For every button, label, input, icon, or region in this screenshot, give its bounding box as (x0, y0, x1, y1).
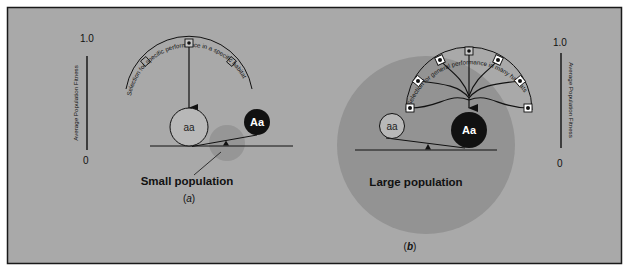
allele-aa-label: aa (183, 122, 195, 133)
population-label-b: Large population (369, 176, 462, 188)
panel-label-b: (b) (404, 241, 417, 252)
habitat-square-icon (524, 104, 532, 112)
axis-title: Average Population Fitness (72, 65, 79, 141)
habitat-square-icon (465, 47, 473, 55)
allele-Aa-label: Aa (250, 116, 265, 128)
panel-label-a: (a) (183, 193, 195, 204)
axis-top-label: 1.0 (553, 37, 567, 48)
habitat-square-icon (406, 104, 414, 112)
axis-title: Average Population Fitness (568, 62, 575, 138)
allele-Aa-label: Aa (462, 124, 477, 136)
axis-top-label: 1.0 (80, 33, 94, 44)
population-label-a: Small population (141, 175, 234, 187)
allele-aa-a: aa (170, 108, 208, 146)
axis-bottom-label: 0 (83, 155, 89, 166)
allele-Aa-a: Aa (244, 109, 270, 135)
figure: 1.0 0 Average Population Fitness Selecti… (0, 0, 633, 272)
allele-aa-b: aa (380, 114, 405, 139)
axis-bottom-label: 0 (557, 158, 563, 169)
selected-habitat-icon (185, 39, 193, 47)
allele-Aa-b: Aa (451, 112, 487, 148)
figure-frame (8, 8, 622, 264)
allele-aa-label: aa (386, 121, 398, 132)
